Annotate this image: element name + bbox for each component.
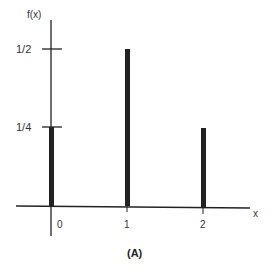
chart-plot: [0, 0, 273, 274]
xtick-label-2: 2: [200, 219, 206, 230]
ytick-label-half: 1/2: [16, 43, 31, 55]
ytick-label-quarter: 1/4: [16, 121, 31, 133]
xtick-label-1: 1: [124, 219, 130, 230]
bar-x0: [49, 127, 54, 206]
bar-x1: [125, 49, 130, 206]
chart: f(x) 1/2 1/4 0 1 2 x (A): [0, 0, 273, 274]
bar-x2: [201, 128, 206, 207]
xtick-label-0: 0: [57, 219, 63, 230]
y-axis-label: f(x): [27, 9, 41, 20]
figure-caption: (A): [127, 247, 142, 259]
x-axis-label: x: [253, 208, 258, 219]
